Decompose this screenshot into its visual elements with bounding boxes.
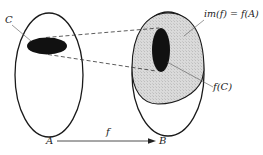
image-of-c-ellipse xyxy=(152,28,170,72)
diagram-canvas: C im(f) = f(A) f(C) A f B xyxy=(0,0,263,155)
function-label: f xyxy=(106,127,110,137)
domain-label: A xyxy=(46,136,53,146)
subset-c-label: C xyxy=(5,15,13,25)
set-a-ellipse xyxy=(15,13,83,137)
codomain-label: B xyxy=(159,136,166,146)
image-label: im(f) = f(A) xyxy=(204,9,259,19)
mapping-diagram xyxy=(0,0,263,155)
subset-c-ellipse xyxy=(27,38,67,55)
image-of-c-label: f(C) xyxy=(213,82,232,92)
arrowhead-icon xyxy=(148,138,156,143)
